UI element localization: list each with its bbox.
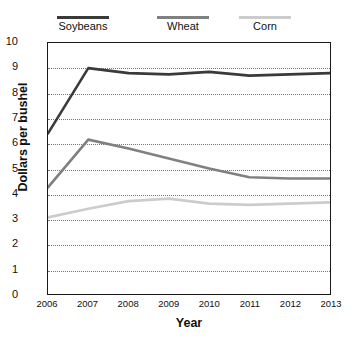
y-tick-label: 4 [0, 188, 18, 199]
x-tick-label: 2010 [189, 298, 229, 309]
y-tick-label: 6 [0, 137, 18, 148]
legend-swatch-corn [239, 16, 291, 19]
legend-item-corn: Corn [228, 16, 302, 33]
y-tick-label: 2 [0, 238, 18, 249]
series-lines [48, 43, 330, 294]
y-tick-label: 8 [0, 87, 18, 98]
legend-label-corn: Corn [228, 20, 302, 33]
line-chart: Soybeans Wheat Corn Dollars per bushel 0… [0, 0, 354, 343]
legend-item-wheat: Wheat [146, 16, 220, 33]
x-tick-label: 2012 [270, 298, 310, 309]
series-line-soybeans [48, 68, 330, 133]
x-tick-label: 2013 [311, 298, 351, 309]
legend-swatch-wheat [157, 16, 209, 19]
x-tick-label: 2011 [230, 298, 270, 309]
x-tick-label: 2009 [149, 298, 189, 309]
x-tick-label: 2008 [108, 298, 148, 309]
plot-area [47, 42, 331, 295]
legend-label-wheat: Wheat [146, 20, 220, 33]
series-line-wheat [48, 140, 330, 188]
series-line-corn [48, 199, 330, 218]
y-tick-label: 7 [0, 112, 18, 123]
legend-item-soybeans: Soybeans [46, 16, 120, 33]
chart-legend: Soybeans Wheat Corn [0, 16, 354, 42]
legend-label-soybeans: Soybeans [46, 20, 120, 33]
y-tick-label: 5 [0, 163, 18, 174]
x-tick-label: 2007 [68, 298, 108, 309]
y-tick-label: 1 [0, 264, 18, 275]
y-tick-label: 10 [0, 36, 18, 47]
y-tick-label: 0 [0, 289, 18, 300]
x-axis-title: Year [47, 316, 331, 330]
y-tick-label: 9 [0, 61, 18, 72]
y-axis-title: Dollars per bushel [16, 62, 30, 212]
x-tick-label: 2006 [27, 298, 67, 309]
y-tick-label: 3 [0, 213, 18, 224]
legend-swatch-soybeans [57, 16, 109, 19]
